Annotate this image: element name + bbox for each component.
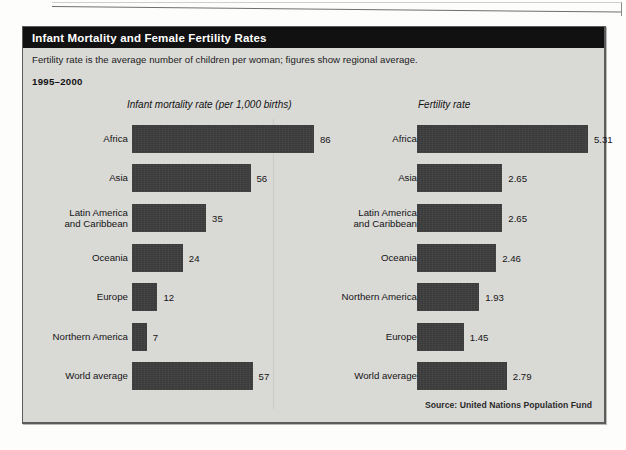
bar-value-label: 2.65 [508, 212, 527, 223]
bar-category-label: Asia [295, 173, 417, 184]
bar-row: Africa5.31 [281, 119, 601, 159]
bar-value-label: 1.45 [470, 331, 489, 342]
bar-row: Asia56 [29, 159, 279, 199]
bar-category-label: Northern America [29, 331, 128, 342]
bar-category-label: Africa [29, 133, 128, 144]
bar-row: Oceania2.46 [281, 238, 601, 278]
panel-period-label: 1995–2000 [32, 76, 83, 87]
bar [417, 323, 464, 351]
chart-title-fertility-rate: Fertility rate [418, 99, 470, 110]
bar-value-label: 24 [189, 252, 200, 263]
bar-row: Latin America and Caribbean35 [29, 198, 279, 238]
bar-category-label: Northern America [295, 291, 417, 302]
page-canvas: Infant Mortality and Female Fertility Ra… [0, 0, 626, 450]
bar-category-label: Oceania [29, 252, 128, 263]
bar [417, 204, 502, 232]
bar-row: Europe1.45 [281, 317, 601, 357]
bar [417, 283, 479, 311]
source-credit: Source: United Nations Population Fund [425, 400, 592, 410]
bar [132, 283, 157, 311]
bar [417, 362, 507, 390]
chart-fertility-rate: Fertility rate Africa5.31Asia2.65Latin A… [281, 99, 601, 419]
bar-value-label: 12 [163, 292, 174, 303]
bar-value-label: 35 [212, 212, 223, 223]
bar-value-label: 2.65 [508, 173, 527, 184]
page-title: Infant Mortality and Female Fertility Ra… [32, 32, 267, 44]
bar [132, 362, 253, 390]
bar [132, 204, 206, 232]
infographic-panel: Infant Mortality and Female Fertility Ra… [22, 26, 606, 424]
bar-category-label: Latin America and Caribbean [295, 207, 417, 230]
bar-value-label: 1.93 [485, 292, 504, 303]
bar-row: Latin America and Caribbean2.65 [281, 198, 601, 238]
bar-value-label: 56 [257, 173, 268, 184]
bar-category-label: Latin America and Caribbean [29, 207, 128, 230]
bar-category-label: Oceania [295, 252, 417, 263]
chart-title-infant-mortality: Infant mortality rate (per 1,000 births) [127, 99, 292, 110]
bar-value-label: 7 [153, 331, 158, 342]
panel-subtitle: Fertility rate is the average number of … [32, 54, 418, 65]
bar-category-label: Europe [295, 331, 417, 342]
bar-category-label: Asia [29, 173, 128, 184]
bar-category-label: Africa [295, 133, 417, 144]
bar-row: Asia2.65 [281, 159, 601, 199]
chart-infant-mortality: Infant mortality rate (per 1,000 births)… [29, 99, 279, 419]
bar [132, 164, 251, 192]
bar-value-label: 2.79 [513, 371, 532, 382]
panel-title-bar: Infant Mortality and Female Fertility Ra… [23, 27, 604, 48]
bar-row: Northern America1.93 [281, 277, 601, 317]
bar-value-label: 57 [259, 371, 270, 382]
bar-row: Northern America7 [29, 317, 279, 357]
bar [417, 125, 588, 153]
bar-category-label: World average [29, 371, 128, 382]
bar-rows-infant-mortality: Africa86Asia56Latin America and Caribbea… [29, 119, 279, 396]
bar [417, 164, 502, 192]
bar [417, 244, 496, 272]
bar-category-label: Europe [29, 291, 128, 302]
bar [132, 244, 183, 272]
bar-row: Africa86 [29, 119, 279, 159]
bar-category-label: World average [295, 371, 417, 382]
bar-row: Europe12 [29, 277, 279, 317]
bar-row: World average2.79 [281, 357, 601, 397]
scan-artifact-top-border [52, 2, 622, 16]
bar-value-label: 2.46 [502, 252, 521, 263]
bar [132, 323, 147, 351]
bar-rows-fertility-rate: Africa5.31Asia2.65Latin America and Cari… [281, 119, 601, 396]
bar-value-label: 5.31 [594, 133, 613, 144]
bar-row: World average57 [29, 357, 279, 397]
bar-row: Oceania24 [29, 238, 279, 278]
